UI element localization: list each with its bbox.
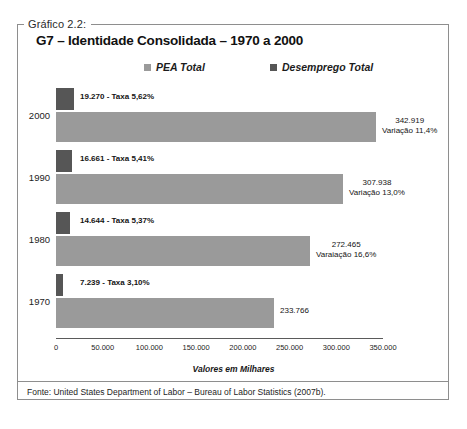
bar-group-1970: 1970 7.239 - Taxa 3,10% 233.766 xyxy=(56,274,383,332)
bar-label-desemprego-2000: 19.270 - Taxa 5,62% xyxy=(80,92,154,101)
bar-label-pea-2000: 342.919 Variação 11,4% xyxy=(382,116,437,136)
y-axis-label-1970: 1970 xyxy=(29,296,50,307)
x-tick-1: 50.000 xyxy=(91,343,114,352)
x-tick-5: 250.000 xyxy=(276,343,303,352)
bar-desemprego-1980 xyxy=(56,212,70,234)
figure-page: Gráfico 2.2: G7 – Identidade Consolidada… xyxy=(0,0,467,429)
bar-value-pea-2000: 342.919 xyxy=(382,116,437,126)
footer-divider xyxy=(18,381,448,382)
bar-variation-pea-1980: Varaiação 16,6% xyxy=(316,250,376,260)
bar-desemprego-1990 xyxy=(56,150,72,172)
bar-variation-pea-2000: Variação 11,4% xyxy=(382,126,437,136)
x-tick-4: 200.000 xyxy=(229,343,256,352)
bar-pea-1970 xyxy=(56,298,274,328)
bar-label-pea-1980: 272.465 Varaiação 16,6% xyxy=(316,240,376,260)
x-tick-0: 0 xyxy=(54,343,58,352)
bar-group-1980: 1980 14.644 - Taxa 5,37% 272.465 Varaiaç… xyxy=(56,212,383,270)
bar-label-pea-1990: 307.938 Variação 13,0% xyxy=(349,178,405,198)
bar-pea-2000 xyxy=(56,112,376,142)
bar-value-pea-1980: 272.465 xyxy=(316,240,376,250)
source-note: Fonte: United States Department of Labor… xyxy=(27,387,326,397)
bar-group-2000: 2000 19.270 - Taxa 5,62% 342.919 Variaçã… xyxy=(56,88,383,146)
bar-value-pea-1970: 233.766 xyxy=(280,306,309,316)
bar-label-pea-1970: 233.766 xyxy=(280,306,309,316)
bar-desemprego-2000 xyxy=(56,88,74,110)
figure-caption: Gráfico 2.2: xyxy=(24,17,91,31)
plot-area: 2000 19.270 - Taxa 5,62% 342.919 Variaçã… xyxy=(56,88,383,338)
bar-value-pea-1990: 307.938 xyxy=(349,178,405,188)
y-axis-label-1980: 1980 xyxy=(29,234,50,245)
x-tick-7: 350.000 xyxy=(369,343,396,352)
bar-label-desemprego-1990: 16.661 - Taxa 5,41% xyxy=(80,154,154,163)
bar-pea-1980 xyxy=(56,236,310,266)
legend-swatch-pea-icon xyxy=(144,64,151,71)
x-tick-3: 150.000 xyxy=(183,343,210,352)
bar-label-desemprego-1980: 14.644 - Taxa 5,37% xyxy=(80,216,154,225)
bar-group-1990: 1990 16.661 - Taxa 5,41% 307.938 Variaçã… xyxy=(56,150,383,208)
x-tick-6: 300.000 xyxy=(323,343,350,352)
bar-variation-pea-1990: Variação 13,0% xyxy=(349,188,405,198)
legend-label-desemprego: Desemprego Total xyxy=(282,61,373,73)
x-axis-baseline xyxy=(56,338,383,339)
bar-desemprego-1970 xyxy=(56,274,63,296)
y-axis-label-1990: 1990 xyxy=(29,172,50,183)
chart-legend: PEA Total Desemprego Total xyxy=(0,61,467,77)
chart-title: G7 – Identidade Consolidada – 1970 a 200… xyxy=(36,33,303,48)
legend-item-pea-total: PEA Total xyxy=(144,61,205,73)
y-axis-label-2000: 2000 xyxy=(29,110,50,121)
x-axis-ticks: 0 50.000 100.000 150.000 200.000 250.000… xyxy=(56,343,383,357)
legend-swatch-desemprego-icon xyxy=(270,64,277,71)
x-axis-title: Valores em Milhares xyxy=(0,364,467,374)
bar-pea-1990 xyxy=(56,174,343,204)
x-tick-2: 100.000 xyxy=(136,343,163,352)
bar-label-desemprego-1970: 7.239 - Taxa 3,10% xyxy=(80,278,150,287)
legend-item-desemprego-total: Desemprego Total xyxy=(270,61,373,73)
legend-label-pea: PEA Total xyxy=(156,61,205,73)
